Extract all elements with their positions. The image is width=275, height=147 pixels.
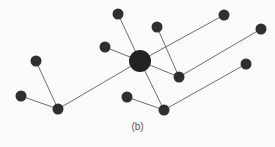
node-n-right-lower: [241, 59, 252, 70]
node-n-upper-mid: [152, 22, 163, 33]
node-n-bottom-left: [122, 92, 133, 103]
node-n-left-mid: [100, 42, 111, 53]
node-n-bottom: [159, 105, 170, 116]
node-n-lower-left-relay: [53, 104, 64, 115]
figure-caption: (b): [0, 121, 275, 132]
node-n-left-upper: [31, 56, 42, 67]
edge-n-lower-left-relay-n-left-upper: [36, 61, 58, 109]
node-n-top-right: [219, 10, 230, 21]
edge-hub-n-top-right: [140, 15, 224, 61]
node-n-far-right: [256, 24, 267, 35]
hub-node: [129, 50, 151, 72]
edge-n-right-mid-n-far-right: [179, 29, 261, 77]
node-n-right-mid: [174, 72, 185, 83]
node-n-top: [113, 9, 124, 20]
node-n-left-lower: [16, 91, 27, 102]
